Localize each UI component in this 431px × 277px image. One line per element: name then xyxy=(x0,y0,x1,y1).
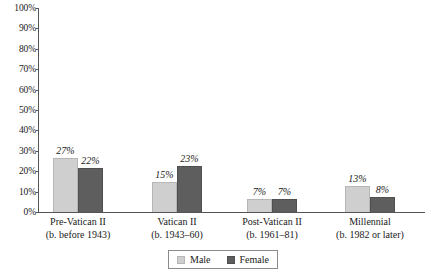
y-axis-tick-label: 50% xyxy=(2,105,36,115)
y-axis-tick: 90% xyxy=(0,23,36,33)
legend-swatch-icon xyxy=(227,256,235,264)
y-axis-tick: 10% xyxy=(0,187,36,197)
y-axis-tick-label: 90% xyxy=(2,23,36,33)
y-axis-tick-label: 30% xyxy=(2,146,36,156)
x-axis-label-primary: Vatican II xyxy=(157,216,196,227)
legend-item-female[interactable]: Female xyxy=(227,254,269,265)
y-axis-tick-label: 70% xyxy=(2,64,36,74)
y-axis-tick-label: 60% xyxy=(2,85,36,95)
bar-female-0 xyxy=(78,168,103,213)
x-axis-label-3: Millennial(b. 1982 or later) xyxy=(310,216,430,241)
bar-value-label: 23% xyxy=(171,153,208,164)
x-axis-label-primary: Post-Vatican II xyxy=(242,216,302,227)
bar-male-2 xyxy=(247,199,272,213)
legend-item-male[interactable]: Male xyxy=(177,254,211,265)
y-axis-tick-label: 80% xyxy=(2,44,36,54)
legend-label: Female xyxy=(240,254,269,265)
bar-value-label: 7% xyxy=(266,186,303,197)
y-axis-tick-label: 20% xyxy=(2,166,36,176)
y-axis-tick: 30% xyxy=(0,146,36,156)
legend-label: Male xyxy=(190,254,211,265)
bar-male-0 xyxy=(53,158,78,213)
bar-value-label: 8% xyxy=(364,184,401,195)
x-axis-label-secondary: (b. 1982 or later) xyxy=(310,229,430,242)
bar-chart: 0%10%20%30%40%50%60%70%80%90%100% 27%22%… xyxy=(0,0,431,277)
bar-value-label: 22% xyxy=(72,155,109,166)
x-axis-line xyxy=(38,212,425,213)
y-axis-tick: 70% xyxy=(0,64,36,74)
bar-female-3 xyxy=(370,197,395,213)
y-axis-tick: 100% xyxy=(0,3,36,13)
legend-swatch-icon xyxy=(177,256,185,264)
x-axis-label-primary: Millennial xyxy=(349,216,391,227)
bar-female-1 xyxy=(177,166,202,213)
y-axis-tick-label: 100% xyxy=(2,3,36,13)
y-axis-tick: 50% xyxy=(0,105,36,115)
chart-legend: MaleFemale xyxy=(168,250,278,269)
y-axis-tick-label: 40% xyxy=(2,125,36,135)
y-axis-tick: 80% xyxy=(0,44,36,54)
bar-female-2 xyxy=(272,199,297,213)
x-axis-label-primary: Pre-Vatican II xyxy=(50,216,106,227)
y-axis-tick: 20% xyxy=(0,166,36,176)
bar-male-1 xyxy=(152,182,177,213)
y-axis-tick: 60% xyxy=(0,85,36,95)
y-axis-tick: 40% xyxy=(0,125,36,135)
plot-area: 27%22%15%23%7%7%13%8% xyxy=(39,8,425,213)
y-axis-tick-label: 10% xyxy=(2,187,36,197)
